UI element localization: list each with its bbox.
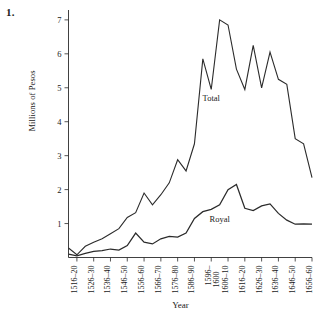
series-annotation-total: Total (203, 93, 221, 103)
chart-series-annotations: TotalRoyal (203, 93, 231, 224)
y-axis-ticks: 1234567 (57, 15, 68, 229)
series-annotation-royal: Royal (209, 214, 230, 224)
line-chart-plot: 1234567 1516–201526–301536–401546–501556… (0, 0, 323, 321)
x-tick-label: 1566–70 (154, 266, 163, 294)
y-tick-label: 4 (57, 117, 62, 127)
y-tick-label: 3 (57, 151, 61, 161)
y-tick-label: 7 (57, 15, 61, 25)
x-tick-label: 1546–50 (120, 266, 129, 294)
x-tick-label: 1556–60 (137, 266, 146, 294)
chart-axes (69, 10, 313, 258)
x-tick-label: 1536–40 (103, 266, 112, 294)
x-tick-label: 1526–30 (87, 266, 96, 294)
y-tick-label: 5 (57, 83, 61, 93)
x-axis-title-wrap: Year (0, 300, 323, 310)
chart-series-lines (69, 20, 313, 256)
x-tick-label-continuation: 1600 (212, 272, 221, 288)
series-line-total (69, 20, 313, 255)
x-axis-ticks: 1516–201526–301536–401546–501556–601566–… (70, 258, 314, 294)
x-tick-label: 1606–10 (221, 266, 230, 294)
x-tick-label: 1516–20 (70, 266, 79, 294)
x-tick-label: 1616–20 (238, 266, 247, 294)
x-tick-label: 1586–90 (187, 266, 196, 294)
figure-container: 1. Millions of Pesos 1234567 1516–201526… (0, 0, 323, 321)
y-tick-label: 1 (57, 219, 61, 229)
x-tick-label: 1576–80 (171, 266, 180, 294)
series-line-royal (69, 185, 313, 256)
y-tick-label: 2 (57, 185, 61, 195)
x-tick-label: 1646–50 (288, 266, 297, 294)
x-axis-title: Year (172, 300, 189, 310)
x-tick-label: 1656–60 (305, 266, 314, 294)
y-tick-label: 6 (57, 49, 61, 59)
x-tick-label: 1636–40 (271, 266, 280, 294)
x-tick-label: 1626–30 (255, 266, 264, 294)
